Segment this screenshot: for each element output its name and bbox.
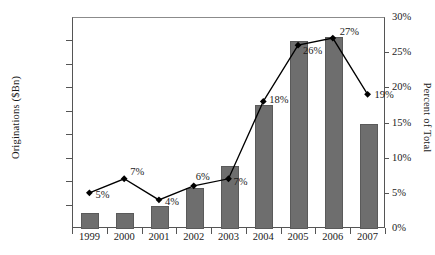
x-axis-tick-mark (176, 228, 177, 234)
percent-data-label: 4% (165, 197, 179, 208)
chart-container: Originations ($Bn) Percent of Total $0$1… (0, 0, 435, 255)
x-axis-tick-mark (350, 228, 351, 234)
percent-data-label: 7% (234, 177, 248, 188)
x-axis-tick-mark (72, 228, 73, 234)
percent-data-label: 27% (340, 27, 359, 38)
y-axis-right-tick-label: 30% (392, 12, 434, 23)
plot-area (72, 17, 385, 228)
x-axis-tick-mark (315, 228, 316, 234)
bar (151, 206, 169, 229)
bar (255, 105, 273, 229)
bar (360, 124, 378, 230)
x-axis-tick-mark (142, 228, 143, 234)
y-axis-right-tick-label: 20% (392, 82, 434, 93)
x-axis-tick-mark (246, 228, 247, 234)
y-axis-left-title: Originations ($Bn) (10, 58, 21, 178)
percent-data-label: 26% (303, 46, 322, 57)
y-axis-right-tick-label: 10% (392, 152, 434, 163)
x-axis-tick-mark (107, 228, 108, 234)
bar (290, 41, 308, 229)
bar (325, 37, 343, 229)
x-axis-tick-mark (211, 228, 212, 234)
percent-data-label: 7% (130, 167, 144, 178)
y-axis-right-tick-label: 0% (392, 223, 434, 234)
bar (186, 188, 204, 229)
percent-data-label: 5% (95, 190, 109, 201)
percent-data-label: 18% (269, 95, 288, 106)
bar (81, 213, 99, 229)
y-axis-right-tick-label: 25% (392, 47, 434, 58)
percent-data-label: 19% (375, 90, 394, 101)
x-axis-tick-mark (281, 228, 282, 234)
x-axis-tick-mark (385, 228, 386, 234)
y-axis-right-tick-label: 15% (392, 117, 434, 128)
y-axis-right-tick-label: 5% (392, 188, 434, 199)
percent-data-label: 6% (196, 172, 210, 183)
bar (116, 213, 134, 229)
x-axis-tick-label: 2007 (346, 232, 390, 243)
